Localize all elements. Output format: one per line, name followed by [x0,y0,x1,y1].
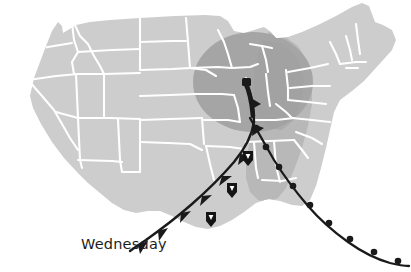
cold-front-origin-marker [242,78,251,86]
weather-map-svg [0,0,411,272]
weather-map: Wednesday [0,0,411,272]
day-label: Wednesday [81,236,167,252]
